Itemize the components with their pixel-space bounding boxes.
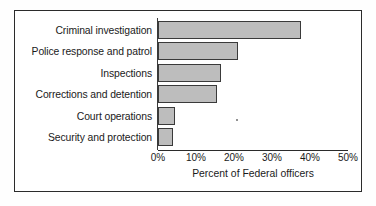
bar-row: Security and protection [0,127,376,149]
bar-row: Criminal investigation [0,19,376,41]
x-tick-label: 20% [224,152,244,163]
bar-corrections-and-detention [158,85,217,103]
x-tick-label: 10% [186,152,206,163]
category-label: Court operations [77,110,152,121]
bar-security-and-protection [158,128,173,146]
bar-row: Inspections [0,62,376,84]
category-label: Police response and patrol [32,46,152,57]
bar-row: Police response and patrol [0,41,376,63]
category-label: Criminal investigation [55,24,152,35]
category-label: Security and protection [48,132,152,143]
category-label: Inspections [101,67,152,78]
bar-inspections [158,64,221,82]
category-label: Corrections and detention [36,89,153,100]
bar-chart-figure: Criminal investigation Police response a… [0,0,376,206]
x-tick-label: 0% [151,152,165,163]
x-tick-label: 40% [300,152,320,163]
bar-row: Corrections and detention [0,84,376,106]
plot-area: Criminal investigation Police response a… [0,0,376,206]
bar-criminal-investigation [158,21,301,39]
x-axis-title: Percent of Federal officers [158,168,348,179]
bar-row: Court operations [0,105,376,127]
value-axis-line [158,150,348,152]
x-tick-label: 50% [338,152,358,163]
bar-court-operations [158,107,175,125]
bar-police-response-and-patrol [158,42,238,60]
x-tick-label: 30% [262,152,282,163]
